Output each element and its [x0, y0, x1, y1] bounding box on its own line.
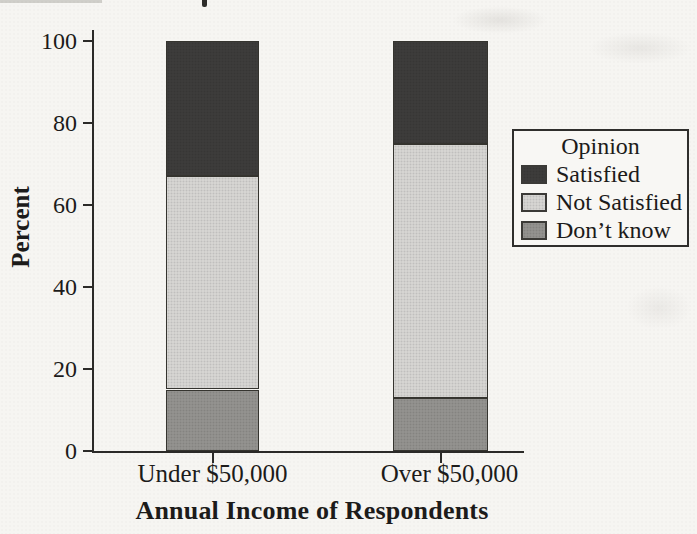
- legend-swatch-don-t-know: [521, 221, 547, 240]
- scan-smudge: [626, 286, 692, 330]
- legend-item: Don’t know: [514, 216, 687, 244]
- y-axis-tick-label: 40: [17, 273, 77, 301]
- y-axis-tick: [83, 368, 92, 370]
- y-axis-tick-label: 0: [17, 437, 77, 465]
- y-axis-tick-label: 100: [17, 27, 77, 55]
- y-axis-tick-label: 60: [17, 191, 77, 219]
- scan-smudge: [452, 6, 548, 34]
- legend-swatch-not-satisfied: [521, 193, 547, 212]
- legend-label: Not Satisfied: [556, 189, 682, 215]
- scan-smudge: [588, 32, 692, 64]
- x-category-label: Under $50,000: [103, 459, 323, 489]
- y-axis-tick: [83, 40, 92, 42]
- x-category-label: Over $50,000: [340, 459, 560, 489]
- x-axis-title: Annual Income of Respondents: [92, 496, 532, 526]
- bar-segment-satisfied: [166, 41, 259, 176]
- x-axis-line: [92, 451, 524, 453]
- legend-item: Not Satisfied: [514, 188, 687, 216]
- legend-box: Opinion SatisfiedNot SatisfiedDon’t know: [512, 129, 689, 247]
- y-axis-tick: [83, 122, 92, 124]
- y-axis-tick-label: 80: [17, 109, 77, 137]
- y-axis-tick: [83, 204, 92, 206]
- scan-streak: [0, 0, 102, 3]
- legend-item: Satisfied: [514, 160, 687, 188]
- legend-label: Don’t know: [556, 217, 671, 243]
- y-axis-line: [92, 30, 94, 453]
- bar-segment-not-satisfied: [393, 144, 488, 398]
- chart-figure: Percent Annual Income of Respondents 020…: [0, 0, 697, 534]
- legend-swatch-satisfied: [521, 165, 547, 184]
- bar-segment-don-t-know: [166, 390, 259, 452]
- y-axis-tick: [83, 450, 92, 452]
- cropped-title-fragment: [202, 0, 207, 7]
- legend-label: Satisfied: [556, 161, 640, 187]
- bar-segment-not-satisfied: [166, 176, 259, 389]
- bar-segment-don-t-know: [393, 398, 488, 451]
- legend-items: SatisfiedNot SatisfiedDon’t know: [514, 160, 687, 244]
- bar-segment-satisfied: [393, 41, 488, 144]
- y-axis-tick-label: 20: [17, 355, 77, 383]
- y-axis-tick: [83, 286, 92, 288]
- legend-title: Opinion: [514, 133, 687, 160]
